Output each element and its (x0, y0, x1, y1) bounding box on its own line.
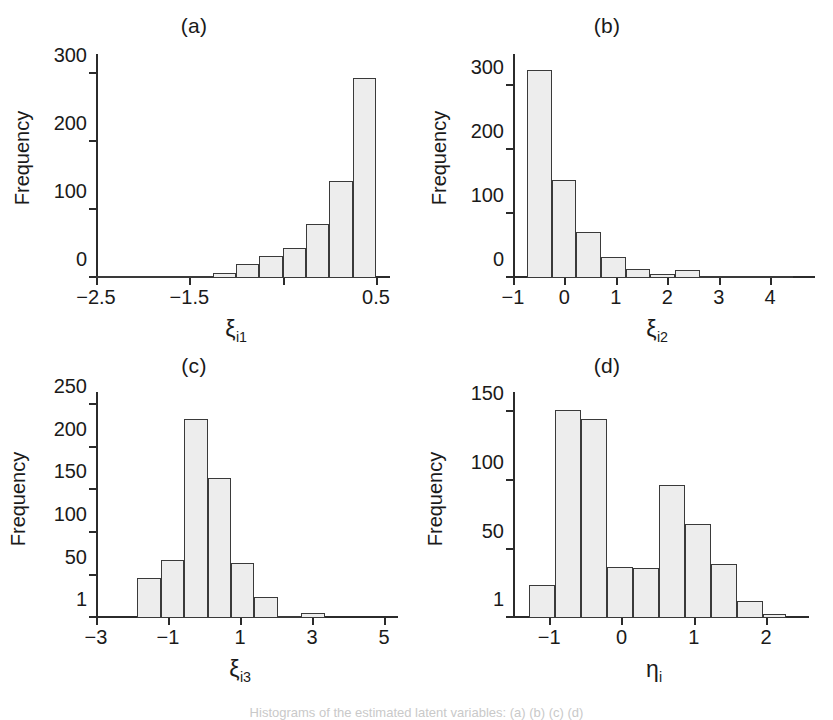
panel-a-x-tick (96, 278, 98, 285)
panel-d-x-tick-label: 2 (761, 627, 772, 647)
histogram-bar (552, 180, 577, 278)
panel-c-y-tick (89, 403, 96, 405)
panel-c-y-tick-label: 1 (76, 589, 87, 609)
histogram-bar (601, 257, 626, 278)
panel-a-title: (a) (0, 14, 402, 38)
histogram-bar (329, 181, 352, 278)
panel-d-x-tick-label: 0 (616, 627, 627, 647)
panel-b-x-tick (719, 278, 721, 285)
figure-caption: Histograms of the estimated latent varia… (0, 706, 833, 720)
histogram-bar (184, 419, 207, 618)
panel-b-x-tick (667, 278, 669, 285)
panel-d-y-tick-label: 50 (482, 521, 504, 541)
panel-c-y-tick-label: 50 (65, 547, 87, 567)
histogram-bar (737, 601, 763, 618)
histogram-bar (581, 419, 607, 618)
panel-d-y-tick (506, 410, 513, 412)
panel-a-y-tick-label: 300 (54, 44, 87, 64)
panel-b-x-axis-label: ξi2 (646, 318, 667, 341)
panel-b-y-tick (506, 84, 513, 86)
histogram-bar (607, 567, 633, 618)
panel-b-title: (b) (399, 14, 815, 38)
panel-c-y-tick (89, 488, 96, 490)
panel-b-y-tick (506, 212, 513, 214)
panel-d-x-tick-label: −1 (538, 627, 561, 647)
panel-b-y-tick-label: 0 (493, 249, 504, 269)
panel-c-x-tick (168, 618, 170, 625)
panel-c-y-tick (89, 446, 96, 448)
histogram-bar (143, 276, 166, 278)
panel-a-y-tick-label: 100 (54, 180, 87, 200)
histogram-bar (711, 564, 737, 618)
panel-a-x-tick (376, 278, 378, 285)
panel-c-y-tick (89, 531, 96, 533)
panel-c-x-tick-label: −3 (85, 627, 108, 647)
panel-d-x-tick (766, 618, 768, 625)
panel-a-x-tick-label: −1.5 (170, 287, 209, 307)
panel-a-x-axis-label: ξi1 (225, 318, 246, 341)
panel-a-y-tick (89, 140, 96, 142)
panel-d-y-tick (506, 479, 513, 481)
panel-b-y-axis-label: Frequency (429, 111, 449, 206)
panel-c-plot-area: Frequency ξi3 150100150200250−3−1135 (96, 398, 384, 618)
histogram-bar (213, 273, 236, 278)
panel-b-y-tick (506, 276, 513, 278)
panel-a-x-tick (189, 278, 191, 285)
panel-d-y-tick (506, 616, 513, 618)
panel-c-y-tick (89, 616, 96, 618)
panel-b-x-tick-label: 3 (713, 287, 724, 307)
panel-a-x-tick-label: −2.5 (76, 287, 115, 307)
histogram-bar (774, 276, 794, 278)
histogram-bar (633, 568, 659, 618)
panel-b-bars (513, 60, 801, 278)
panel-c-x-tick (96, 618, 98, 625)
panel-b-x-tick-label: 2 (662, 287, 673, 307)
figure-histogram-grid: (a) Frequency ξi1 0100200300−2.5−1.50.5 … (0, 0, 833, 720)
panel-a-y-tick (89, 208, 96, 210)
histogram-bar (306, 224, 329, 278)
panel-a-x-tick-minor (283, 278, 285, 285)
histogram-bar (675, 270, 700, 278)
histogram-bar (254, 597, 277, 618)
histogram-bar (659, 485, 685, 618)
panel-b-x-tick-label: −1 (502, 287, 525, 307)
panel-b: (b) Frequency ξi2 0100200300−101234 (417, 0, 833, 340)
panel-a-y-tick-label: 200 (54, 112, 87, 132)
panel-b-x-tick (513, 278, 515, 285)
histogram-bar (259, 256, 282, 278)
panel-d-y-tick-label: 1 (493, 589, 504, 609)
panel-c-x-tick-label: −1 (157, 627, 180, 647)
histogram-bar (137, 578, 160, 618)
panel-a: (a) Frequency ξi1 0100200300−2.5−1.50.5 (0, 0, 416, 340)
panel-b-x-tick (616, 278, 618, 285)
histogram-bar (626, 269, 651, 278)
histogram-bar (236, 264, 259, 278)
panel-c-x-tick (312, 618, 314, 625)
panel-d-x-tick (694, 618, 696, 625)
panel-c-bars (96, 398, 384, 618)
histogram-bar (724, 276, 749, 278)
panel-c-y-tick-label: 250 (54, 375, 87, 395)
panel-c-x-axis-label: ξi3 (229, 658, 250, 681)
histogram-bar (529, 585, 555, 618)
panel-b-x-tick-label: 4 (765, 287, 776, 307)
histogram-bar (119, 276, 142, 278)
panel-d-y-tick-label: 100 (471, 452, 504, 472)
histogram-bar (283, 248, 306, 278)
histogram-bar (231, 563, 254, 618)
panel-b-y-tick (506, 148, 513, 150)
panel-c-x-tick-label: 1 (234, 627, 245, 647)
histogram-bar (576, 232, 601, 278)
panel-c-y-axis-label: Frequency (8, 452, 28, 547)
panel-d-x-tick (549, 618, 551, 625)
panel-b-y-tick-label: 300 (471, 56, 504, 76)
panel-b-y-tick-label: 100 (471, 184, 504, 204)
panel-d-plot-area: Frequency ηi 150100150−1012 (513, 398, 795, 618)
panel-c-x-tick-label: 3 (306, 627, 317, 647)
panel-d-title: (d) (399, 354, 815, 378)
panel-d-y-tick-label: 150 (471, 382, 504, 402)
histogram-bar (166, 276, 189, 278)
panel-a-y-tick-label: 0 (76, 249, 87, 269)
panel-a-y-axis-label: Frequency (12, 111, 32, 206)
panel-c-y-tick-label: 200 (54, 418, 87, 438)
